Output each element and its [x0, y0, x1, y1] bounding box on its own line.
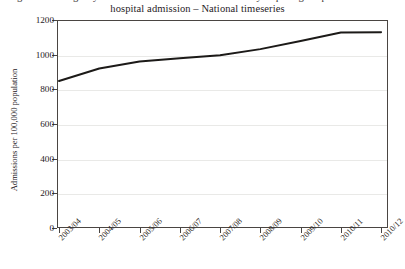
- y-tick-label: 600: [0, 119, 54, 129]
- y-tick-label: 1000: [0, 50, 54, 60]
- chart-title: Figure 1: Emergency admissions for condi…: [0, 0, 395, 14]
- y-tick-label: 200: [0, 188, 54, 198]
- data-series-line: [57, 20, 388, 228]
- y-tick-label: 1200: [0, 15, 54, 25]
- y-tick-label: 400: [0, 154, 54, 164]
- y-axis-label: Admissions per 100,000 population: [9, 30, 19, 230]
- y-tick-label: 800: [0, 84, 54, 94]
- chart-title-line-2: hospital admission – National timeseries: [0, 3, 395, 15]
- y-tick-label: 0: [0, 223, 54, 233]
